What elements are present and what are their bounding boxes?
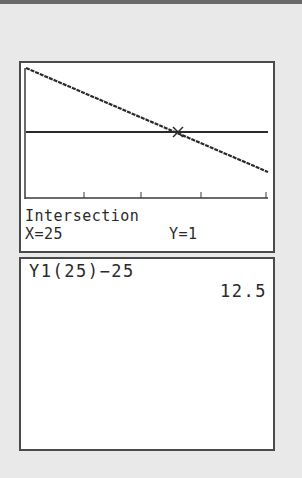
decreasing-line-y1 [26,68,268,172]
home-expression: Y1(25)−25 [29,263,135,279]
home-screen[interactable]: Y1(25)−25 12.5 [19,257,275,451]
intersection-label: Intersection [25,208,139,224]
x-value: X=25 [25,226,63,242]
graph-screen[interactable]: Intersection X=25 Y=1 [19,61,275,253]
top-rule [0,0,302,4]
y-value: Y=1 [169,226,198,242]
home-result: 12.5 [220,283,267,299]
